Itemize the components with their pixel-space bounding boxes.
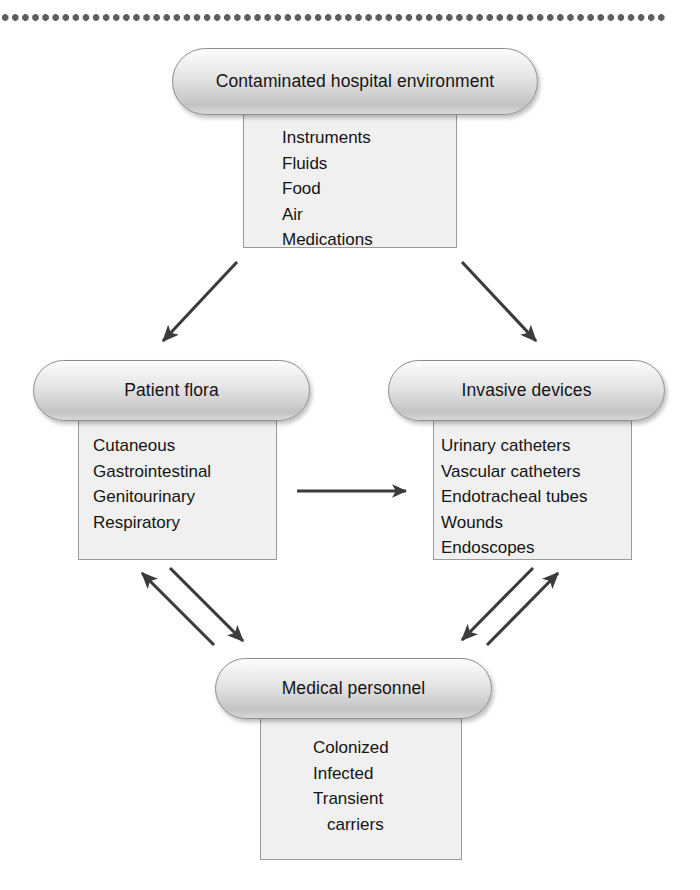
node-medical-personnel-title-pill: Medical personnel [215, 658, 492, 719]
node-medical-personnel-item-list: Colonized Infected Transient carriers [261, 717, 461, 837]
diagram-canvas: Instruments Fluids Food Air Medications … [0, 0, 700, 890]
node-environment-item-list: Instruments Fluids Food Air Medications [244, 113, 456, 253]
node-patient-flora-detail-box: Cutaneous Gastrointestinal Genitourinary… [78, 418, 277, 560]
node-invasive-devices-title-pill: Invasive devices [388, 360, 665, 421]
arrow-environment-to-patient-flora [163, 262, 237, 341]
list-item: Colonized [313, 735, 461, 761]
node-patient-flora-title-pill: Patient flora [33, 360, 310, 421]
list-item: Food [282, 176, 456, 202]
list-item: Transient [313, 786, 461, 812]
list-item: Infected [313, 761, 461, 787]
node-invasive-devices-title: Invasive devices [462, 380, 592, 401]
list-item: Air [282, 202, 456, 228]
list-item: Medications [282, 227, 456, 253]
list-item: Cutaneous [93, 433, 276, 459]
list-item: Vascular catheters [441, 459, 631, 485]
list-item: Wounds [441, 510, 631, 536]
node-patient-flora-title: Patient flora [124, 380, 219, 401]
list-item: carriers [313, 812, 461, 838]
node-environment-title: Contaminated hospital environment [216, 71, 495, 92]
dotted-divider [2, 13, 666, 22]
list-item: Urinary catheters [441, 433, 631, 459]
arrow-medical-personnel-to-invasive-devices [487, 573, 558, 645]
list-item: Respiratory [93, 510, 276, 536]
list-item: Genitourinary [93, 484, 276, 510]
node-invasive-devices-item-list: Urinary catheters Vascular catheters End… [434, 419, 631, 561]
list-item: Endoscopes [441, 535, 631, 561]
node-environment-detail-box: Instruments Fluids Food Air Medications [243, 112, 457, 248]
list-item: Instruments [282, 125, 456, 151]
list-item: Gastrointestinal [93, 459, 276, 485]
node-environment-title-pill: Contaminated hospital environment [172, 48, 538, 115]
list-item: Endotracheal tubes [441, 484, 631, 510]
arrow-invasive-devices-to-medical-personnel [462, 568, 533, 640]
arrow-environment-to-invasive-devices [462, 262, 536, 341]
list-item: Fluids [282, 151, 456, 177]
node-medical-personnel-title: Medical personnel [282, 678, 426, 699]
node-medical-personnel-detail-box: Colonized Infected Transient carriers [260, 716, 462, 860]
node-invasive-devices-detail-box: Urinary catheters Vascular catheters End… [433, 418, 632, 560]
arrow-patient-flora-to-medical-personnel [170, 568, 243, 641]
arrow-medical-personnel-to-patient-flora [142, 573, 214, 645]
node-patient-flora-item-list: Cutaneous Gastrointestinal Genitourinary… [79, 419, 276, 535]
